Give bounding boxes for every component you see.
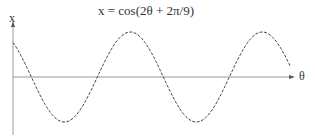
plot-canvas xyxy=(0,0,315,139)
x-axis-arrowhead-icon xyxy=(289,75,295,79)
chart-title: x = cos(2θ + 2π/9) xyxy=(98,3,194,19)
x-axis-label: θ xyxy=(299,69,305,84)
y-axis-label: x xyxy=(9,11,15,26)
